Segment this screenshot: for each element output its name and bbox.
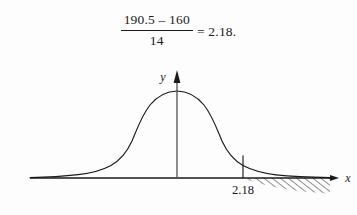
fraction-denominator: 14 bbox=[150, 31, 164, 50]
tail-hatch-fill bbox=[243, 178, 330, 194]
figure-page: 190.5 – 160 14 = 2.18. bbox=[0, 0, 357, 215]
y-axis-label: y bbox=[159, 70, 166, 84]
normal-curve bbox=[30, 91, 330, 178]
fraction: 190.5 – 160 14 bbox=[121, 12, 193, 50]
y-axis-arrowhead bbox=[174, 70, 181, 83]
x-axis-arrowhead bbox=[330, 175, 339, 181]
plot-svg: y x 2.18 bbox=[0, 55, 357, 215]
distribution-plot: y x 2.18 bbox=[0, 55, 357, 215]
x-axis-label: x bbox=[344, 171, 351, 185]
formula-expression: 190.5 – 160 14 = 2.18. bbox=[0, 12, 357, 50]
x-tick-label-218: 2.18 bbox=[232, 183, 254, 197]
fraction-numerator: 190.5 – 160 bbox=[121, 12, 193, 29]
formula-result: = 2.18. bbox=[197, 22, 236, 40]
shaded-tail-region bbox=[243, 178, 330, 194]
